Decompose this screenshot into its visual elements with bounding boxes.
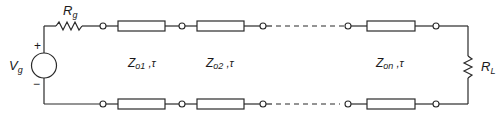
source-resistor-icon — [56, 22, 82, 30]
section-2-top-box — [197, 21, 244, 31]
terminal-icon — [433, 101, 439, 107]
terminal-icon — [433, 23, 439, 29]
section-1-bottom-box — [118, 99, 165, 109]
terminal-icon — [260, 23, 266, 29]
section-n-bottom-box — [367, 99, 415, 109]
terminal-icon — [345, 101, 351, 107]
terminal-icon — [345, 23, 351, 29]
terminal-icon — [179, 23, 185, 29]
terminal-icon — [179, 101, 185, 107]
terminal-icon — [100, 23, 106, 29]
circuit-diagram: Rg Vg + − Zo1 ,τ Zo2 ,τ Zon ,τ RL — [0, 0, 502, 121]
section-1-label: Zo1 ,τ — [127, 56, 156, 71]
section-1-top-box — [118, 21, 165, 31]
terminal-icon — [100, 101, 106, 107]
section-2-label: Zo2 ,τ — [205, 56, 234, 71]
minus-sign: − — [33, 77, 40, 91]
section-n-top-box — [367, 21, 415, 31]
load-resistor-label: RL — [481, 59, 495, 76]
source-resistor-label: Rg — [63, 3, 77, 20]
section-2-bottom-box — [197, 99, 244, 109]
source-label: Vg — [9, 58, 23, 75]
plus-sign: + — [34, 39, 41, 53]
voltage-source-icon — [32, 53, 57, 78]
terminal-icon — [260, 101, 266, 107]
section-n-label: Zon ,τ — [375, 56, 404, 71]
load-resistor-icon — [464, 56, 472, 78]
